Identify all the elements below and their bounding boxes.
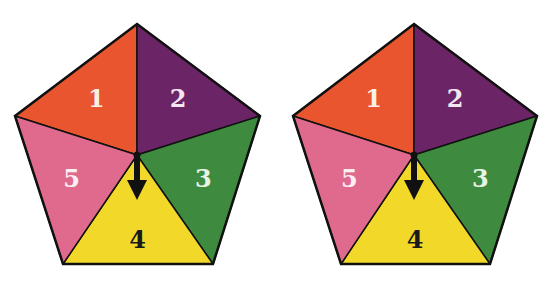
sector-label-2: 2: [447, 84, 464, 113]
sector-label-4: 4: [407, 225, 424, 254]
sector-label-5: 5: [341, 164, 358, 193]
sector-label-3: 3: [195, 164, 212, 193]
pentagon-spinner-left: 12345: [15, 24, 260, 264]
sector-label-4: 4: [129, 225, 146, 254]
sector-label-1: 1: [88, 84, 105, 113]
sector-label-5: 5: [63, 164, 80, 193]
sector-label-1: 1: [365, 84, 382, 113]
pentagon-spinner-right: 12345: [293, 24, 537, 264]
sector-label-2: 2: [170, 84, 187, 113]
pointer-hub: [411, 152, 418, 159]
pointer-hub: [134, 152, 141, 159]
spinner-diagram: 12345 12345: [0, 0, 555, 287]
sector-label-3: 3: [472, 164, 489, 193]
